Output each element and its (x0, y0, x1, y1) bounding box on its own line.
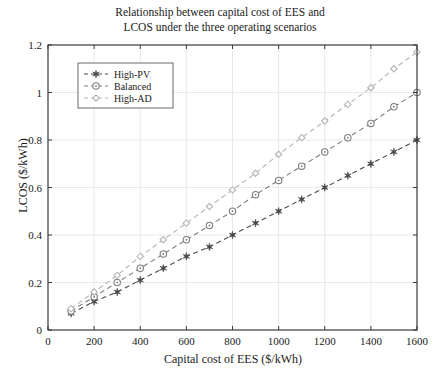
data-point-marker (206, 243, 213, 251)
data-point-marker-dot (370, 122, 372, 124)
x-axis-tick-label: 1000 (268, 335, 291, 347)
legend-label-high-pv: High-PV (114, 69, 151, 80)
y-axis-tick-label: 0.2 (28, 277, 42, 289)
y-axis-tick-label: 1.2 (28, 39, 42, 51)
data-point-marker-dot (139, 267, 141, 269)
data-point-marker (206, 203, 212, 209)
series-line (71, 140, 417, 313)
data-point-marker (298, 196, 305, 204)
data-point-marker-dot (324, 151, 326, 153)
data-point-marker-dot (393, 106, 395, 108)
y-axis-tick-label: 1 (37, 87, 43, 99)
data-point-marker-dot (93, 296, 95, 298)
x-axis-tick-label: 600 (178, 335, 195, 347)
data-point-marker (391, 66, 397, 72)
data-point-marker-dot (301, 165, 303, 167)
data-point-marker (160, 264, 167, 272)
x-axis-tick-label: 200 (86, 335, 103, 347)
data-point-marker-dot (185, 239, 187, 241)
data-point-marker (183, 253, 190, 261)
chart-figure: Relationship between capital cost of EES… (0, 0, 440, 380)
y-axis-tick-label: 0.4 (28, 229, 42, 241)
data-point-marker-dot (162, 253, 164, 255)
legend-marker-dot (95, 85, 97, 87)
data-point-marker (252, 219, 259, 227)
data-point-marker-dot (255, 194, 257, 196)
legend-label-high-ad: High-AD (114, 93, 152, 104)
data-point-marker (368, 160, 375, 168)
series-balanced (68, 89, 420, 314)
data-point-marker (275, 207, 282, 215)
data-point-marker (345, 172, 352, 180)
y-axis-tick-label: 0.6 (28, 182, 42, 194)
data-point-marker-dot (232, 210, 234, 212)
x-axis-tick-label: 1400 (360, 335, 383, 347)
y-axis-tick-label: 0 (37, 324, 43, 336)
chart-legend: High-PVBalancedHigh-AD (78, 63, 173, 108)
data-point-marker (391, 148, 398, 156)
y-axis-tick-label: 0.8 (28, 134, 42, 146)
series-high-pv (68, 136, 421, 317)
x-axis-tick-label: 800 (224, 335, 241, 347)
x-axis-tick-label: 1200 (314, 335, 337, 347)
data-point-marker (114, 288, 121, 296)
x-axis-tick-label: 0 (45, 335, 51, 347)
legend-label-balanced: Balanced (114, 81, 151, 92)
plot-area: 0200400600800100012001400160000.20.40.60… (0, 0, 440, 380)
data-point-marker-dot (347, 137, 349, 139)
x-axis-tick-label: 1600 (406, 335, 429, 347)
data-point-marker-dot (278, 179, 280, 181)
x-axis-tick-label: 400 (132, 335, 149, 347)
data-point-marker-dot (116, 282, 118, 284)
series-line (71, 93, 417, 312)
data-point-marker-dot (209, 225, 211, 227)
